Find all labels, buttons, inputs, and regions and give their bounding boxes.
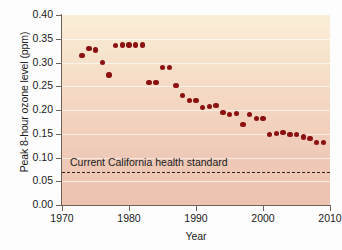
data-point [213,103,218,108]
data-point [86,46,91,51]
data-point [140,42,145,47]
y-tick-label: 0.10 [13,151,53,163]
x-tick-mark [263,206,264,211]
gridline [62,86,330,87]
x-tick-label: 2010 [307,212,342,224]
gridline [62,110,330,111]
data-point [160,65,165,70]
y-tick-mark [56,63,61,64]
data-point [79,53,84,58]
y-tick-label: 0.40 [13,8,53,20]
y-tick-label: 0.30 [13,56,53,68]
data-point [106,72,111,77]
y-tick-mark [56,158,61,159]
x-tick-label: 1970 [39,212,85,224]
data-point [167,65,172,70]
data-point [280,130,285,135]
data-point [173,83,178,88]
y-tick-mark [56,134,61,135]
data-point [120,42,125,47]
data-point [187,98,192,103]
data-point [307,136,312,141]
data-point [220,110,225,115]
x-tick-mark [330,206,331,211]
y-tick-mark [56,110,61,111]
plot-area: Current California health standard [62,15,330,205]
data-point [180,93,185,98]
data-point [287,132,292,137]
data-point [100,60,105,65]
health-standard-line [62,172,330,173]
x-tick-label: 2000 [240,212,286,224]
y-tick-mark [56,181,61,182]
ozone-trend-chart: Peak 8-hour ozone level (ppm) Current Ca… [0,0,342,250]
data-point [93,47,98,52]
data-point [321,140,326,145]
x-tick-mark [129,206,130,211]
data-point [254,116,259,121]
x-axis-title: Year [62,230,330,242]
y-tick-label: 0.20 [13,103,53,115]
data-point [294,132,299,137]
y-tick-label: 0.05 [13,174,53,186]
data-point [234,111,239,116]
data-point [133,42,138,47]
x-tick-label: 1980 [106,212,152,224]
gridline [62,181,330,182]
data-point [146,80,151,85]
data-point [260,116,265,121]
gridline [62,39,330,40]
y-tick-label: 0.25 [13,79,53,91]
health-standard-label: Current California health standard [70,156,228,168]
x-tick-mark [196,206,197,211]
data-point [301,134,306,139]
y-tick-label: 0.00 [13,198,53,210]
y-tick-mark [56,39,61,40]
data-point [153,80,158,85]
x-tick-label: 1990 [173,212,219,224]
data-point [113,43,118,48]
y-tick-mark [56,86,61,87]
y-tick-mark [56,205,61,206]
data-point [267,132,272,137]
y-tick-label: 0.15 [13,127,53,139]
data-point [193,98,198,103]
data-point [314,140,319,145]
y-tick-mark [56,15,61,16]
data-point [240,122,245,127]
data-point [274,131,279,136]
y-tick-label: 0.35 [13,32,53,44]
data-point [126,42,131,47]
data-point [247,112,252,117]
data-point [207,104,212,109]
x-tick-mark [62,206,63,211]
data-point [227,112,232,117]
